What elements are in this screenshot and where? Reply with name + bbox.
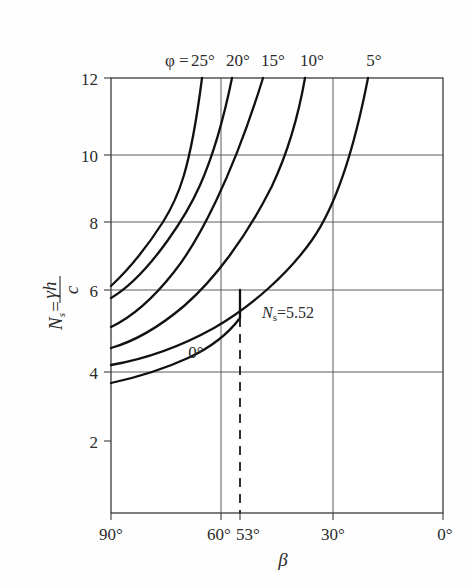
y-tick-label-10: 10 — [81, 147, 98, 166]
ns-annotation-value: =5.52 — [277, 304, 314, 321]
chart-figure: φ = 25° 20° 15° 10° 5° 0° Ns=5.52 12 10 … — [0, 0, 473, 588]
plot-area-border — [111, 78, 443, 513]
ns-annotation-text: Ns=5.52 — [261, 304, 314, 323]
x-tick-labels: 90° 60° 53° 30° 0° — [99, 525, 453, 544]
y-axis-ticks — [104, 78, 111, 441]
x-tick-label-60: 60° — [207, 525, 231, 544]
phi-legend-prefix: φ = — [165, 51, 189, 70]
y-axis-title-equals: = — [45, 300, 66, 313]
y-tick-label-8: 8 — [90, 214, 99, 233]
x-tick-label-30: 30° — [321, 525, 345, 544]
phi-legend-5: 5° — [366, 51, 381, 70]
y-tick-labels: 12 10 8 6 4 2 — [81, 70, 99, 452]
ns-value-annotation: Ns=5.52 — [261, 304, 314, 323]
phi-legend-15: 15° — [261, 51, 285, 70]
phi-inline-label-0: 0° — [188, 343, 203, 362]
y-axis-title-lhs: Ns= — [45, 300, 67, 331]
y-axis-title-denominator: c — [61, 285, 82, 294]
phi-legend-10: 10° — [300, 51, 324, 70]
x-tick-label-0: 0° — [437, 525, 452, 544]
phi-legend-20: 20° — [226, 51, 250, 70]
x-axis-title: β — [277, 549, 288, 570]
phi-legend: φ = 25° 20° 15° 10° 5° — [165, 51, 382, 70]
x-tick-label-90: 90° — [99, 525, 123, 544]
x-axis-ticks — [111, 513, 443, 520]
x-tick-label-53: 53° — [236, 525, 260, 544]
y-tick-label-2: 2 — [90, 433, 99, 452]
plot-frame — [111, 78, 443, 513]
chart-canvas: φ = 25° 20° 15° 10° 5° 0° Ns=5.52 12 10 … — [0, 0, 473, 588]
y-axis-title-numerator: γh — [39, 282, 60, 299]
y-tick-label-12: 12 — [81, 70, 98, 89]
y-axis-title: Ns= γh c — [39, 276, 82, 331]
phi-legend-25: 25° — [191, 51, 215, 70]
y-tick-label-4: 4 — [90, 364, 99, 383]
y-tick-label-6: 6 — [90, 282, 99, 301]
